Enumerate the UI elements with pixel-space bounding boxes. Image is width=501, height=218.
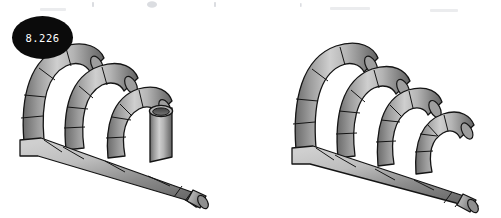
- figure-label-8-226: 8.226: [12, 16, 73, 59]
- exhaust-header-drawing-right: [252, 0, 501, 218]
- figure-8-227: 8.227: [252, 0, 501, 218]
- runner-pipe-4-stub: [149, 105, 172, 162]
- figure-8-226: 8.226: [0, 0, 250, 218]
- runner-pipe-4: [415, 112, 475, 174]
- figure-label-text: 8.226: [25, 32, 59, 44]
- page-canvas: 8.226: [0, 0, 501, 218]
- stub-bore: [153, 108, 170, 115]
